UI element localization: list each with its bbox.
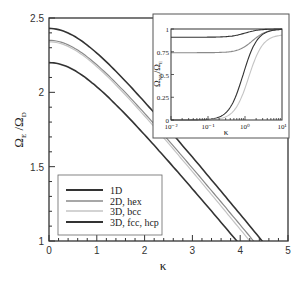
inset-y-tick-label: 0.25 [157, 94, 170, 102]
y-tick-label: 2 [38, 87, 44, 98]
x-tick-label: 5 [285, 245, 291, 256]
legend-label: 3D, bcc [110, 206, 142, 217]
legend-label: 1D [110, 185, 122, 196]
x-tick-label: 4 [237, 245, 243, 256]
inset-y-tick-label: 0 [166, 117, 170, 125]
x-tick-label: 0 [46, 245, 52, 256]
svg-text:ΩNN/ΩE: ΩNN/ΩE [152, 61, 163, 87]
inset-plot: 10⁻²10⁻¹10⁰10¹00.250.50.751 [153, 14, 289, 138]
inset-y-tick-label: 1 [166, 26, 170, 34]
x-tick-label: 3 [190, 245, 196, 256]
x-tick-label: 1 [94, 245, 100, 256]
y-axis-label: ΩE /ΩD [11, 112, 28, 148]
y-tick-label: 1.5 [30, 162, 44, 173]
legend: 1D2D, hex3D, bcc3D, fcc, hcp [58, 175, 162, 235]
inset-x-axis-label: κ [224, 127, 229, 137]
inset-x-tick-label: 10⁻¹ [201, 123, 214, 131]
x-tick-label: 2 [142, 245, 148, 256]
inset-x-tick-label: 10¹ [277, 123, 286, 131]
y-tick-label: 1 [38, 236, 44, 247]
legend-label: 3D, fcc, hcp [110, 217, 159, 228]
chart-canvas: 01234511.522.5 10⁻²10⁻¹10⁰10¹00.250.50.7… [0, 0, 305, 286]
inset-y-tick-label: 0.75 [157, 49, 170, 57]
svg-text:ΩE /ΩD: ΩE /ΩD [11, 112, 28, 148]
y-tick-label: 2.5 [30, 13, 44, 24]
inset-y-axis-label: ΩNN/ΩE [152, 61, 163, 87]
x-axis-label: κ [160, 258, 167, 273]
inset-x-tick-label: 10⁰ [240, 123, 250, 131]
